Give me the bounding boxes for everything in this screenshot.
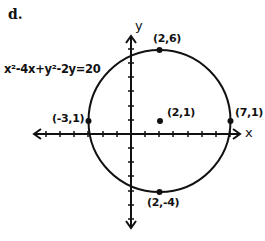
point-label-right: (7,1) bbox=[235, 106, 263, 119]
point-left bbox=[86, 118, 92, 124]
graph bbox=[0, 0, 265, 241]
point-label-bottom: (2,-4) bbox=[147, 196, 179, 209]
point-label-top: (2,6) bbox=[153, 32, 181, 45]
y-axis-label: y bbox=[135, 18, 142, 33]
point-right bbox=[228, 118, 234, 124]
point-top bbox=[157, 47, 163, 53]
point-label-center: (2,1) bbox=[167, 106, 195, 119]
equation-label: x²-4x+y²-2y=20 bbox=[4, 62, 101, 76]
x-axis-label: x bbox=[245, 125, 252, 140]
point-bottom bbox=[157, 189, 163, 195]
y-axis bbox=[126, 36, 136, 228]
x-axis bbox=[34, 129, 240, 139]
point-center bbox=[157, 118, 163, 124]
point-label-left: (-3,1) bbox=[52, 112, 84, 125]
